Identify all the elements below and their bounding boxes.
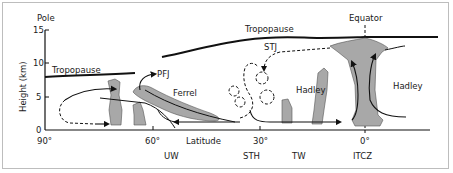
zone-tw: TW [291, 151, 306, 161]
eddies [229, 72, 274, 107]
x-tick-30: 30° [253, 136, 268, 146]
y-tick-15: 15 [33, 25, 44, 35]
hadley-right-label: Hadley [393, 81, 423, 91]
equator-label: Equator [349, 13, 383, 23]
hadley-north-surface [250, 110, 340, 122]
tropopause-top-label: Tropopause [244, 24, 294, 34]
circulation-diagram: 15 10 5 0 Height (km) Pole Equator Tropo… [0, 0, 453, 173]
zone-sth: STH [243, 151, 260, 161]
pole-label: Pole [37, 13, 55, 23]
tropopause-left-label: Tropopause [51, 65, 101, 75]
x-tick-0: 0° [360, 136, 370, 146]
y-tick-5: 5 [36, 92, 41, 102]
clouds [108, 38, 388, 126]
y-axis-label: Height (km) [18, 61, 28, 112]
y-tick-10: 10 [33, 58, 44, 68]
polar-cell-upper-flow [65, 89, 115, 100]
x-tick-90: 90° [37, 136, 52, 146]
ferrel-dashed-loop [240, 63, 258, 118]
x-axis-label: Latitude [186, 136, 221, 146]
x-tick-60: 60° [145, 136, 160, 146]
pfj-label: PFJ [157, 69, 170, 79]
hadley-left-label: Hadley [296, 85, 326, 95]
zone-uw: UW [164, 151, 179, 161]
zone-itcz: ITCZ [353, 151, 372, 161]
stj-label: STJ [264, 42, 277, 52]
y-tick-0: 0 [36, 125, 41, 135]
polar-cell-descent [60, 100, 95, 124]
ferrel-label: Ferrel [173, 88, 197, 98]
